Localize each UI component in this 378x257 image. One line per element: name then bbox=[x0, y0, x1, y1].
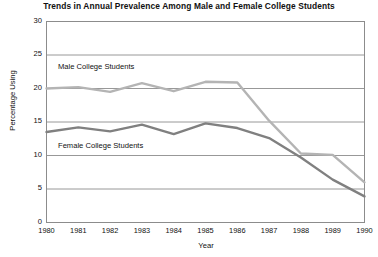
line-chart-plot bbox=[0, 0, 378, 257]
series-label-male: Male College Students bbox=[58, 62, 134, 71]
series-label-female: Female College Students bbox=[58, 141, 143, 150]
chart-figure: Trends in Annual Prevalence Among Male a… bbox=[0, 0, 378, 257]
plot-area-wrapper: Percentage Using Year 30 25 20 15 10 5 0… bbox=[0, 0, 378, 257]
